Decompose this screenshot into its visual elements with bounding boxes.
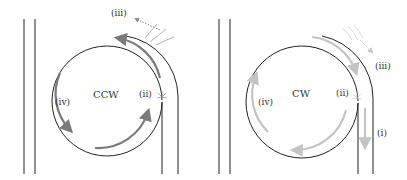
left-wave-lines [145,24,174,45]
right-arrow-bottom [294,110,346,150]
left-label-ii: (ii) [139,90,152,99]
left-arrow-bottom [95,112,148,148]
right-label-iii: (iii) [375,62,391,71]
left-label-iii: (iii) [111,9,127,18]
right-direction-label: CW [292,89,310,99]
right-label-iv: (iv) [258,98,273,107]
right-wave-lines [342,25,363,40]
right-arrow-top [312,37,356,72]
left-sparkle-icon [157,91,167,98]
left-ring-inner-wall [52,46,162,174]
left-ring-outer-wall [126,36,178,174]
diagram-canvas: CCW (ii) (iii) (iv) CW (ii) (iii) (iv) (… [0,0,407,180]
left-label-iv: (iv) [55,98,70,107]
right-arrow-iii [360,40,372,52]
left-direction-label: CCW [93,90,119,100]
right-ring-inner-wall [246,46,358,174]
right-label-ii: (ii) [336,89,349,98]
right-label-i: (i) [377,129,387,138]
right-sparkle-icon [352,92,362,99]
